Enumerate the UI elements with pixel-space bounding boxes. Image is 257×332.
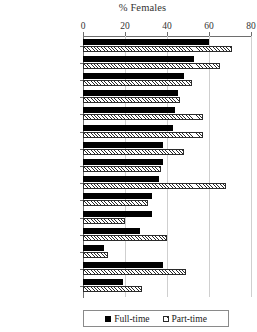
chart-row: Health Sciences (83, 54, 251, 71)
bar-part-time (83, 63, 220, 69)
legend-item-part-time: Part-time (163, 314, 207, 324)
chart-row: All staff (83, 261, 251, 278)
x-tick-label: 40 (162, 21, 172, 31)
chart-row: Philosophy (83, 278, 251, 295)
chart-row: Natural (83, 226, 251, 243)
chart-row: Education (83, 37, 251, 54)
chart-row: All other (83, 71, 251, 88)
chart-row: Agric & home (83, 175, 251, 192)
bar-part-time (83, 200, 148, 206)
bar-full-time (83, 159, 163, 165)
bar-part-time (83, 97, 180, 103)
chart-title: % Females (0, 2, 257, 13)
chart-row: Business (83, 192, 251, 209)
bar-full-time (83, 125, 173, 131)
plot-area: EducationHealth SciencesAll otherCommuni… (83, 36, 251, 297)
x-tick-label: 60 (204, 21, 214, 31)
bar-full-time (83, 39, 209, 45)
legend-swatch-part-time-icon (163, 316, 169, 322)
legend-label-part-time: Part-time (172, 314, 207, 324)
chart-row: Social sciences (83, 157, 251, 174)
bar-full-time (83, 107, 175, 113)
chart-row: Occupational (83, 209, 251, 226)
bar-full-time (83, 176, 159, 182)
chart-row: Communications (83, 89, 251, 106)
x-tick-label: 0 (81, 21, 86, 31)
legend-label-full-time: Full-time (114, 314, 149, 324)
legend-swatch-full-time-icon (105, 316, 111, 322)
chart-row: Law (83, 140, 251, 157)
bar-full-time (83, 245, 104, 251)
x-gridline (251, 36, 252, 297)
bar-full-time (83, 211, 152, 217)
bar-full-time (83, 279, 123, 285)
bar-part-time (83, 149, 184, 155)
bar-full-time (83, 262, 163, 268)
chart-row: Engineering (83, 243, 251, 260)
bar-part-time (83, 132, 203, 138)
bar-part-time (83, 166, 161, 172)
x-tick-label: 80 (246, 21, 256, 31)
bar-part-time (83, 235, 167, 241)
bar-part-time (83, 46, 232, 52)
bar-full-time (83, 193, 152, 199)
legend-item-full-time: Full-time (105, 314, 149, 324)
bar-part-time (83, 80, 192, 86)
bar-full-time (83, 228, 140, 234)
bar-part-time (83, 114, 203, 120)
bar-part-time (83, 252, 108, 258)
bar-part-time (83, 269, 186, 275)
bar-full-time (83, 73, 184, 79)
x-tick-label: 20 (120, 21, 130, 31)
bar-full-time (83, 90, 178, 96)
bar-part-time (83, 286, 142, 292)
bar-part-time (83, 218, 125, 224)
chart-row: Fine arts (83, 123, 251, 140)
chart-row: Humanities (83, 106, 251, 123)
bar-full-time (83, 142, 163, 148)
bar-full-time (83, 56, 194, 62)
chart-legend: Full-time Part-time (83, 310, 229, 327)
percent-females-bar-chart: % Females 020406080 EducationHealth Scie… (0, 0, 257, 332)
bar-part-time (83, 183, 226, 189)
